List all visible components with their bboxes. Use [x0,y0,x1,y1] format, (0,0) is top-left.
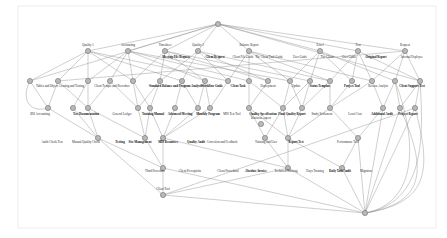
graph-edge [163,168,365,213]
concept-label: Study Settlement [312,113,333,116]
graph-node[interactable] [45,105,50,110]
graph-node[interactable] [195,48,200,53]
node-label: Excel [317,44,324,47]
graph-node[interactable] [246,78,251,83]
concept-label: Status Template [310,85,331,88]
concept-label: Audit Check Test [41,141,62,144]
graph-node[interactable] [55,78,60,83]
concept-label: The Client [321,56,334,59]
concept-label: General Ledger [112,113,131,116]
graph-node[interactable] [135,105,140,110]
concept-label: Training and User [255,141,277,144]
concept-label: Client Task [231,85,246,88]
concept-label: Manual Quality Check [72,141,100,144]
graph-node[interactable] [85,48,90,53]
graph-edge [58,51,88,81]
concept-label: The Client Task Guide [255,56,283,59]
concept-label: Project Report [398,113,417,116]
node-label: Request [400,44,410,47]
concept-label: Client Procedural [217,170,238,173]
graph-node[interactable] [162,48,167,53]
graph-node[interactable] [369,78,374,83]
graph-node[interactable] [397,105,402,110]
node-label: Test [355,44,360,47]
concept-label: Meeting File Request [162,56,190,59]
graph-node[interactable] [355,48,360,53]
concept-label: Advanced Meeting [168,113,193,116]
graph-node[interactable] [392,78,397,83]
node-label: Quality 1 [82,44,93,47]
concept-label: MIS Resources [158,141,178,144]
node-label: Quality 2 [192,44,203,47]
graph-edge [133,51,165,81]
concept-label: Third Procedure [145,170,165,173]
graph-node[interactable] [246,105,251,110]
graph-node[interactable] [380,105,385,110]
graph-edge [128,51,133,81]
graph-edge [310,51,320,81]
graph-node[interactable] [125,48,130,53]
graph-node[interactable] [327,105,332,110]
graph-node[interactable] [402,48,407,53]
graph-node[interactable] [258,121,263,126]
concept-label: Local Cost [348,113,361,116]
node-label: Business Aspect [251,117,271,120]
graph-edge [110,51,128,81]
graph-node[interactable] [246,48,251,53]
concept-label: Release Analyst [368,85,388,88]
graph-node[interactable] [265,78,270,83]
concept-label: Days Training [306,170,323,173]
concept-label: Migration [360,170,372,173]
graph-node[interactable] [107,78,112,83]
graph-node[interactable] [202,78,207,83]
concept-label: Testing [115,141,124,144]
graph-node[interactable] [280,105,285,110]
concept-label: Tables and Object Creating and Testing [36,85,84,88]
concept-label: Balance and Program Analysis [162,85,202,88]
graph-edge [365,108,383,213]
graph-node[interactable] [27,78,32,83]
node-group [27,21,422,215]
diagram-canvas: Quality 1AccountingTimesheetQuality 2Bal… [0,0,447,238]
graph-edge-arc [365,81,421,213]
graph-svg [0,0,447,238]
concept-label: Report Test [288,141,303,144]
graph-node[interactable] [147,105,152,110]
graph-node[interactable] [85,78,90,83]
graph-node[interactable] [160,192,165,197]
graph-node[interactable] [362,210,367,215]
node-label: Timesheet [159,44,172,47]
concept-label: User Guide [293,56,307,59]
concept-label: Daily Task Audit [329,170,351,173]
concept-label: Monthly Program [196,113,220,116]
concept-label: Standard [149,85,161,88]
graph-node[interactable] [412,105,417,110]
graph-node[interactable] [215,21,220,26]
graph-node[interactable] [157,78,162,83]
graph-node[interactable] [317,48,322,53]
graph-node[interactable] [172,105,177,110]
graph-edge [283,81,290,108]
concept-label: Additional Audit [371,113,393,116]
graph-node[interactable] [287,78,292,83]
graph-node[interactable] [207,105,212,110]
concept-label: Quality Audit [187,141,205,144]
concept-label: Performance Tool [337,141,359,144]
graph-node[interactable] [179,78,184,83]
concept-label: Correction and Feedback [207,141,238,144]
graph-node[interactable] [130,78,135,83]
concept-label: Absolute Invoice [245,170,267,173]
graph-node[interactable] [85,105,90,110]
graph-node[interactable] [225,78,230,83]
concept-label: User Guide [342,56,356,59]
concept-label: Training Manual [142,113,164,116]
graph-node[interactable] [417,78,422,83]
graph-node[interactable] [349,78,354,83]
concept-label: Site Management [129,141,152,144]
graph-node[interactable] [195,105,200,110]
graph-node[interactable] [70,105,75,110]
concept-label: Internal Deployee [401,56,423,59]
graph-node[interactable] [327,78,332,83]
graph-node[interactable] [307,78,312,83]
graph-node[interactable] [299,105,304,110]
